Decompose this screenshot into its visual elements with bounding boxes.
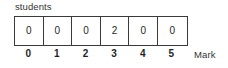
x-axis-tick-label: 5	[157, 47, 186, 61]
frequency-table-chart: students 0 0 0 2 0 0 0 1 2 3 4 5 Mark	[0, 0, 228, 68]
x-axis-tick-label: 1	[43, 47, 72, 61]
x-axis-tick-label: 0	[14, 47, 43, 61]
frequency-cell: 0	[72, 17, 101, 45]
x-axis-tick-label: 4	[128, 47, 157, 61]
frequency-cell: 0	[129, 17, 158, 45]
x-axis-tick-label: 3	[100, 47, 129, 61]
x-axis-tick-row: 0 1 2 3 4 5	[14, 47, 186, 61]
x-axis-title: Mark	[194, 49, 216, 61]
x-axis-tick-label: 2	[71, 47, 100, 61]
frequency-cell: 0	[158, 17, 187, 45]
frequency-cell: 0	[15, 17, 44, 45]
frequency-cell: 2	[101, 17, 130, 45]
y-axis-label: students	[15, 1, 52, 13]
frequency-row: 0 0 0 2 0 0	[14, 16, 188, 46]
frequency-cell: 0	[44, 17, 73, 45]
